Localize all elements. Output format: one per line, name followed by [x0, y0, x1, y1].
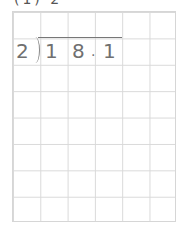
divisor: 2: [16, 38, 29, 64]
problem-number-partial: (1) 2: [14, 0, 62, 7]
dividend-digit: 1: [103, 38, 116, 64]
dividend-digit: 8: [72, 38, 85, 64]
dividend-digit: 1: [45, 38, 58, 64]
decimal-point: .: [91, 38, 95, 64]
